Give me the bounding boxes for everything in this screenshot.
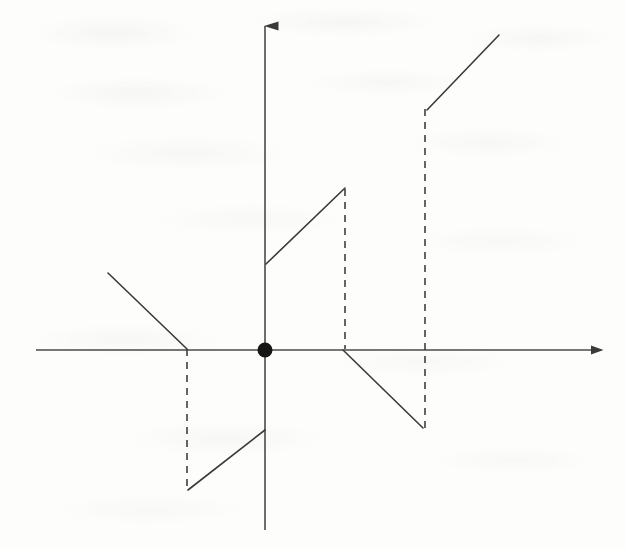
origin-point	[258, 343, 273, 358]
branch-far-right-ascending	[427, 35, 499, 110]
function-branches-group	[108, 35, 499, 490]
branch-lower-left-ascending	[188, 430, 265, 490]
branch-upper-middle-ascending	[266, 188, 345, 264]
figure-container	[0, 0, 626, 548]
branch-right-descending	[343, 350, 423, 428]
graph-canvas	[0, 0, 626, 548]
branch-far-left-descending	[108, 273, 187, 349]
dashed-jumps-group	[187, 109, 425, 489]
axes-group	[36, 26, 592, 530]
